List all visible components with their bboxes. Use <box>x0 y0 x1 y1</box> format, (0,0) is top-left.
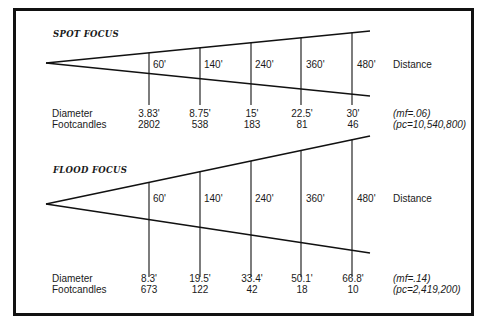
spot-footcandles-label: Footcandles <box>52 119 106 130</box>
spot-diameter-60: 3.83' <box>138 108 159 119</box>
flood-distance-140: 140' <box>204 193 223 204</box>
spot-diameter-label: Diameter <box>52 108 93 119</box>
spot-diameter-240: 15' <box>245 108 258 119</box>
spot-distance-label: Distance <box>393 59 432 70</box>
flood-diameter-240: 33.4' <box>241 273 262 284</box>
flood-cone-bottom-edge <box>46 204 370 253</box>
flood-distance-60: 60' <box>153 193 166 204</box>
beam-spread-diagram: SPOT FOCUS 60' 140' 240' 360' 480' Dista… <box>0 0 484 321</box>
spot-distance-480: 480' <box>357 59 376 70</box>
flood-footcandles-480: 10 <box>347 284 359 295</box>
spot-pc-note: (pc=10,540,800) <box>393 119 466 130</box>
flood-diameter-140: 19.5' <box>189 273 210 284</box>
spot-footcandles-140: 538 <box>192 119 209 130</box>
flood-distance-360: 360' <box>306 193 325 204</box>
spot-mf-note: (mf=.06) <box>393 108 431 119</box>
spot-diameter-360: 22.5' <box>291 108 312 119</box>
flood-footcandles-360: 18 <box>296 284 308 295</box>
flood-footcandles-140: 122 <box>192 284 209 295</box>
flood-diameter-60: 8.3' <box>141 273 157 284</box>
spot-footcandles-360: 81 <box>296 119 308 130</box>
spot-footcandles-240: 183 <box>244 119 261 130</box>
spot-distance-60: 60' <box>153 59 166 70</box>
spot-distance-240: 240' <box>255 59 274 70</box>
flood-focus-title: FLOOD FOCUS <box>52 165 127 175</box>
spot-diameter-140: 8.75' <box>189 108 210 119</box>
spot-diameter-480: 30' <box>346 108 359 119</box>
spot-focus-section: SPOT FOCUS 60' 140' 240' 360' 480' Dista… <box>46 29 466 130</box>
spot-footcandles-480: 46 <box>347 119 359 130</box>
flood-pc-note: (pc=2,419,200) <box>393 284 461 295</box>
flood-diameter-360: 50.1' <box>291 273 312 284</box>
flood-distance-240: 240' <box>255 193 274 204</box>
flood-focus-section: FLOOD FOCUS 60' 140' 240' 360' 480' Dist… <box>46 136 461 295</box>
flood-footcandles-label: Footcandles <box>52 284 106 295</box>
flood-mf-note: (mf=.14) <box>393 273 431 284</box>
flood-diameter-480: 66.8' <box>342 273 363 284</box>
flood-distance-label: Distance <box>393 193 432 204</box>
spot-focus-title: SPOT FOCUS <box>53 29 119 39</box>
flood-footcandles-240: 42 <box>246 284 258 295</box>
spot-distance-140: 140' <box>204 59 223 70</box>
flood-distance-480: 480' <box>357 193 376 204</box>
spot-footcandles-60: 2802 <box>138 119 161 130</box>
flood-diameter-label: Diameter <box>52 273 93 284</box>
spot-distance-360: 360' <box>306 59 325 70</box>
flood-footcandles-60: 673 <box>141 284 158 295</box>
